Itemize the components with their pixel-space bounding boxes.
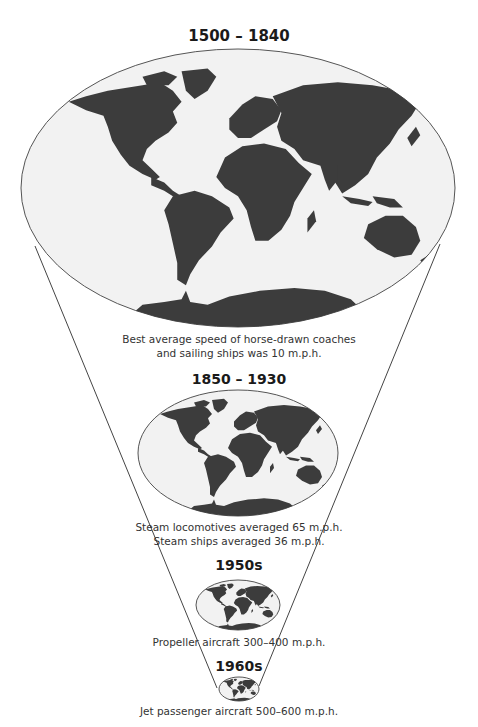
caption-line: Best average speed of horse-drawn coache…: [0, 332, 478, 346]
era-caption-1960s: Jet passenger aircraft 500–600 m.p.h.: [0, 704, 478, 718]
shrinking-world-diagram: [0, 0, 478, 727]
era-caption-1950s: Propeller aircraft 300–400 m.p.h.: [0, 635, 478, 649]
era-title-1960s: 1960s: [0, 658, 478, 674]
era-caption-1850-1930: Steam locomotives averaged 65 m.p.h. Ste…: [0, 520, 478, 548]
world-map-1850-1930: [138, 390, 338, 517]
era-title-1850-1930: 1850 – 1930: [0, 371, 478, 387]
world-map-1500-1840: [21, 49, 455, 330]
era-title-1950s: 1950s: [0, 557, 478, 573]
world-map-1950s: [196, 580, 280, 631]
caption-line: Steam ships averaged 36 m.p.h.: [0, 534, 478, 548]
caption-line: Steam locomotives averaged 65 m.p.h.: [0, 520, 478, 534]
caption-line: Jet passenger aircraft 500–600 m.p.h.: [0, 704, 478, 718]
era-caption-1500-1840: Best average speed of horse-drawn coache…: [0, 332, 478, 360]
world-map-1960s: [219, 677, 259, 701]
caption-line: Propeller aircraft 300–400 m.p.h.: [0, 635, 478, 649]
caption-line: and sailing ships was 10 m.p.h.: [0, 346, 478, 360]
era-title-1500-1840: 1500 – 1840: [0, 27, 478, 45]
